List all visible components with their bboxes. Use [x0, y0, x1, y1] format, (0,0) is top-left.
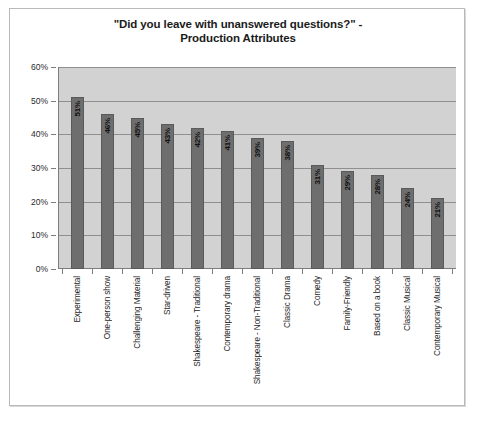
x-tick-mark — [362, 269, 363, 274]
bar-value-label: 51% — [73, 101, 82, 116]
x-tick-label: Classic Musical — [403, 276, 412, 331]
bar-value-label: 28% — [373, 179, 382, 194]
bar-value-label: 29% — [343, 175, 352, 190]
y-tick-label: 10% — [31, 230, 48, 240]
bar-slot: 31% — [302, 67, 332, 269]
x-label-slot: Shakespeare - Traditional — [182, 276, 212, 408]
bar[interactable]: 43% — [161, 124, 174, 269]
y-tick-mark — [51, 168, 56, 169]
bar[interactable]: 24% — [401, 188, 414, 269]
x-label-slot: Classic Musical — [392, 276, 422, 408]
x-tick-mark — [242, 269, 243, 274]
bar[interactable]: 29% — [341, 171, 354, 269]
x-label-slot: Contemporary drama — [212, 276, 242, 408]
x-tick-mark — [122, 269, 123, 274]
x-axis: ExperimentalOne-person showChallenging M… — [58, 269, 456, 409]
x-label-slot: Classic Drama — [272, 276, 302, 408]
x-tick-label: Comedy — [313, 276, 322, 306]
x-label-slot: Experimental — [62, 276, 92, 408]
bar[interactable]: 41% — [221, 131, 234, 269]
x-tick-mark — [182, 269, 183, 274]
y-tick-label: 0% — [36, 264, 48, 274]
y-tick-label: 40% — [31, 129, 48, 139]
bars-layer: 51%46%45%43%42%41%39%38%31%29%28%24%21% — [58, 67, 456, 269]
bar[interactable]: 28% — [371, 175, 384, 269]
bar-slot: 43% — [152, 67, 182, 269]
y-tick-label: 60% — [31, 62, 48, 72]
chart-title-line-2: Production Attributes — [30, 31, 446, 45]
bar-slot: 28% — [362, 67, 392, 269]
x-tick-label: Star-driven — [163, 276, 172, 315]
bar-slot: 45% — [122, 67, 152, 269]
x-axis-ticks — [58, 269, 456, 274]
x-tick-mark — [332, 269, 333, 274]
bar-slot: 21% — [422, 67, 452, 269]
x-tick-label: Family-Friendly — [343, 276, 352, 330]
bar-slot: 29% — [332, 67, 362, 269]
x-tick-label: Shakespeare - Traditional — [193, 276, 202, 367]
bar-slot: 42% — [182, 67, 212, 269]
bar-slot: 24% — [392, 67, 422, 269]
bar-value-label: 41% — [223, 135, 232, 150]
bar[interactable]: 42% — [191, 128, 204, 269]
bar[interactable]: 21% — [431, 198, 444, 269]
bar-value-label: 31% — [313, 169, 322, 184]
bar-value-label: 38% — [283, 145, 292, 160]
y-tick-mark — [51, 134, 56, 135]
x-tick-mark — [152, 269, 153, 274]
bar-slot: 51% — [62, 67, 92, 269]
bar[interactable]: 45% — [131, 118, 144, 270]
plot-wrap: 51%46%45%43%42%41%39%38%31%29%28%24%21% — [58, 67, 456, 269]
x-tick-label: Shakespeare - Non-Traditional — [253, 276, 262, 384]
chart-title-line-1: "Did you leave with unanswered questions… — [30, 17, 446, 31]
x-label-slot: Contemporary Musical — [422, 276, 452, 408]
bar[interactable]: 39% — [251, 138, 264, 269]
y-tick-label: 50% — [31, 96, 48, 106]
x-tick-label: Contemporary drama — [223, 276, 232, 352]
bar-slot: 46% — [92, 67, 122, 269]
x-label-slot: Based on a book — [362, 276, 392, 408]
y-tick-mark — [51, 101, 56, 102]
y-axis: 60%50%40%30%20%10%0% — [10, 61, 56, 273]
y-tick-label: 30% — [31, 163, 48, 173]
bar[interactable]: 46% — [101, 114, 114, 269]
bar-slot: 39% — [242, 67, 272, 269]
bar-value-label: 43% — [163, 128, 172, 143]
x-label-slot: Challenging Material — [122, 276, 152, 408]
x-tick-mark — [92, 269, 93, 274]
y-tick-label: 20% — [31, 197, 48, 207]
bar-value-label: 46% — [103, 118, 112, 133]
x-tick-label: One-person show — [103, 276, 112, 339]
bar[interactable]: 31% — [311, 165, 324, 269]
bar-slot: 38% — [272, 67, 302, 269]
x-axis-labels: ExperimentalOne-person showChallenging M… — [58, 276, 456, 408]
bar[interactable]: 38% — [281, 141, 294, 269]
bar-slot: 41% — [212, 67, 242, 269]
x-tick-mark — [392, 269, 393, 274]
x-tick-label: Challenging Material — [133, 276, 142, 349]
bar-value-label: 45% — [133, 122, 142, 137]
x-label-slot: Shakespeare - Non-Traditional — [242, 276, 272, 408]
bar[interactable]: 51% — [71, 97, 84, 269]
chart-frame: "Did you leave with unanswered questions… — [9, 8, 465, 406]
bar-value-label: 39% — [253, 142, 262, 157]
bar-value-label: 21% — [433, 202, 442, 217]
x-label-slot: Comedy — [302, 276, 332, 408]
x-tick-mark — [422, 269, 423, 274]
x-label-slot: One-person show — [92, 276, 122, 408]
x-tick-mark — [212, 269, 213, 274]
y-tick-mark — [51, 235, 56, 236]
x-tick-mark — [452, 269, 453, 274]
y-tick-mark — [51, 67, 56, 68]
y-tick-mark — [51, 269, 56, 270]
chart-title: "Did you leave with unanswered questions… — [30, 17, 446, 45]
x-tick-mark — [272, 269, 273, 274]
x-tick-label: Contemporary Musical — [433, 276, 442, 356]
x-tick-mark — [62, 269, 63, 274]
bar-value-label: 42% — [193, 132, 202, 147]
x-tick-label: Experimental — [73, 276, 82, 323]
x-tick-label: Based on a book — [373, 276, 382, 336]
x-label-slot: Star-driven — [152, 276, 182, 408]
bar-value-label: 24% — [403, 192, 412, 207]
x-tick-label: Classic Drama — [283, 276, 292, 328]
